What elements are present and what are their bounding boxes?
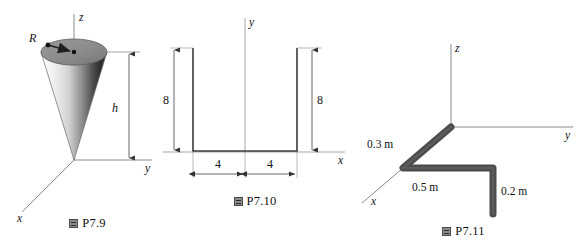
figure-p7-9-canvas: z y x R h <box>0 0 175 252</box>
p711-z-axis-label: z <box>454 42 460 54</box>
p711-bent-rod <box>403 127 493 214</box>
figure-p7-11: z y x 0.3 m 0.5 m 0.2 m P7.11 <box>345 0 582 252</box>
p711-x-axis-label: x <box>370 195 377 207</box>
p79-height-label: h <box>112 101 118 115</box>
p711-segment-z-label: 0.2 m <box>501 185 527 197</box>
figure-p7-11-caption: P7.11 <box>345 224 582 239</box>
figure-cjk-glyph-icon <box>69 219 78 228</box>
p710-right-width-label: 4 <box>267 157 273 171</box>
p710-right-height-label: 8 <box>317 93 323 107</box>
p79-center-dot <box>72 50 76 54</box>
figure-p7-9-caption: P7.9 <box>0 216 175 231</box>
figure-cjk-glyph-icon <box>234 197 243 206</box>
p710-left-width-label: 4 <box>215 157 221 171</box>
figure-p7-9: z y x R h P7.9 <box>0 0 175 252</box>
p710-y-axis-label: y <box>248 16 255 29</box>
figure-p7-10-canvas: y x 8 8 4 4 <box>160 0 350 252</box>
p710-left-height-label: 8 <box>163 93 169 107</box>
p79-y-axis-label: y <box>144 162 151 175</box>
p79-radius-anchor-dot <box>46 43 51 48</box>
figure-p7-9-caption-text: P7.9 <box>82 216 105 231</box>
p710-x-axis-label: x <box>337 154 344 166</box>
figure-p7-10-caption-text: P7.10 <box>247 194 277 209</box>
figure-sheet: z y x R h P7.9 <box>0 0 582 252</box>
figure-p7-11-caption-text: P7.11 <box>455 224 484 239</box>
figure-p7-11-canvas: z y x 0.3 m 0.5 m 0.2 m <box>345 0 582 252</box>
p711-segment-y-label: 0.5 m <box>412 181 438 193</box>
figure-p7-10: y x 8 8 4 4 <box>160 0 350 252</box>
figure-cjk-glyph-icon <box>442 227 451 236</box>
p79-x-axis-line <box>22 160 74 212</box>
p79-radius-label: R <box>28 31 37 45</box>
p79-z-axis-label: z <box>78 11 84 23</box>
figure-p7-10-caption: P7.10 <box>160 194 350 209</box>
p711-segment-x-label: 0.3 m <box>367 138 393 150</box>
p79-cone-body <box>41 52 107 160</box>
p711-y-axis-label: y <box>564 129 571 142</box>
